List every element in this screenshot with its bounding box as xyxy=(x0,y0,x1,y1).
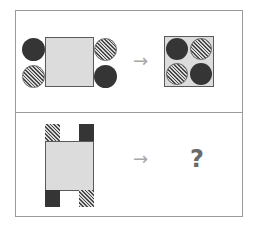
row1-left-square xyxy=(45,37,94,87)
question-mark: ? xyxy=(190,147,204,171)
hatched-tab-icon xyxy=(79,190,94,207)
hatched-circle-icon xyxy=(190,38,212,60)
dark-circle-icon xyxy=(166,38,188,60)
arrow-icon: → xyxy=(133,150,148,168)
arrow-icon: → xyxy=(133,52,148,70)
dark-tab-icon xyxy=(45,190,60,207)
dark-tab-icon xyxy=(79,124,94,142)
hatched-circle-icon xyxy=(166,63,188,85)
hatched-tab-icon xyxy=(45,124,60,142)
dark-circle-icon xyxy=(190,63,212,85)
dark-circle-icon xyxy=(22,38,45,61)
dark-circle-icon xyxy=(94,65,117,88)
hatched-circle-icon xyxy=(22,65,45,88)
row2-left-rectangle xyxy=(45,141,94,191)
hatched-circle-icon xyxy=(94,38,117,61)
